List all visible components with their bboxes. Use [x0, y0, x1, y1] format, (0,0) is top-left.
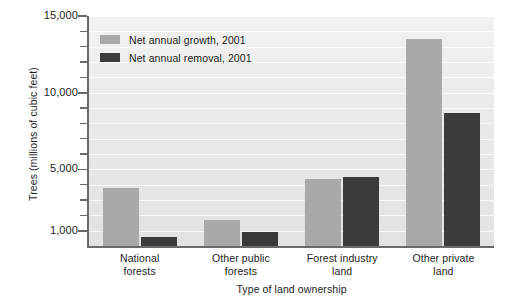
- bar-growth: [204, 220, 240, 246]
- x-axis-tick-label-line: land: [393, 265, 494, 278]
- y-axis-tick-minor: [80, 184, 87, 185]
- legend-item: Net annual growth, 2001: [100, 32, 252, 47]
- x-axis-tick-label-line: forests: [89, 265, 190, 278]
- bar-chart-figure: Trees (millions of cubic feet) 1,0005,00…: [0, 0, 506, 308]
- y-axis-tick-major: [78, 230, 87, 232]
- y-axis-tick-label: 5,000: [12, 162, 78, 174]
- y-axis-tick-minor: [80, 46, 87, 47]
- x-axis-tick-label-line: forests: [190, 265, 291, 278]
- x-axis-tick-label: Nationalforests: [89, 252, 190, 277]
- bar-removal: [141, 237, 177, 246]
- y-axis-tick-labels: 1,0005,00010,00015,000: [12, 0, 78, 308]
- gridline: [89, 16, 494, 17]
- bar-growth: [406, 39, 442, 246]
- legend-swatch-growth: [100, 35, 120, 44]
- x-axis-tick-label-line: Other public: [190, 252, 291, 265]
- y-axis-tick-major: [78, 169, 87, 171]
- y-axis-tick-minor: [80, 107, 87, 108]
- y-axis-tick-minor: [80, 31, 87, 32]
- bar-removal: [343, 177, 379, 246]
- x-axis-title: Type of land ownership: [89, 283, 494, 295]
- y-axis-tick-minor: [80, 138, 87, 139]
- bar-growth: [103, 188, 139, 246]
- legend-item: Net annual removal, 2001: [100, 50, 252, 65]
- legend-label: Net annual growth, 2001: [129, 34, 246, 46]
- y-axis-tick-minor: [80, 215, 87, 216]
- y-axis-tick-major: [78, 15, 87, 17]
- y-axis-tick-minor: [80, 199, 87, 200]
- y-axis-tick-minor: [80, 123, 87, 124]
- y-axis-tick-minor: [80, 153, 87, 154]
- x-axis-tick-label-line: Forest industry: [292, 252, 393, 265]
- legend-label: Net annual removal, 2001: [129, 52, 252, 64]
- y-axis-tick-label: 10,000: [12, 86, 78, 98]
- x-axis-tick-label-line: Other private: [393, 252, 494, 265]
- y-axis-tick-minor: [80, 77, 87, 78]
- y-axis-tick-label: 15,000: [12, 9, 78, 21]
- bar-removal: [242, 232, 278, 246]
- x-axis-line: [87, 246, 494, 248]
- x-axis-tick-label: Forest industryland: [292, 252, 393, 277]
- y-axis-tick-label: 1,000: [12, 224, 78, 236]
- x-axis-tick-label: Other privateland: [393, 252, 494, 277]
- legend-swatch-removal: [100, 53, 120, 62]
- y-axis-tick-major: [78, 92, 87, 94]
- x-axis-tick-label-line: National: [89, 252, 190, 265]
- chart-legend: Net annual growth, 2001Net annual remova…: [100, 32, 252, 68]
- y-axis-line: [87, 16, 89, 247]
- bar-removal: [444, 113, 480, 246]
- bar-growth: [305, 179, 341, 247]
- x-axis-tick-label: Other publicforests: [190, 252, 291, 277]
- y-axis-tick-minor: [80, 61, 87, 62]
- x-axis-tick-label-line: land: [292, 265, 393, 278]
